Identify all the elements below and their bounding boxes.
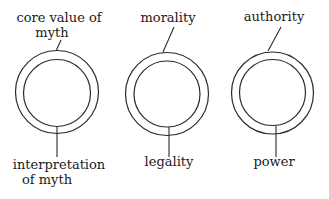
diagram-canvas: core value of myth interpretation of myt… [0, 0, 329, 199]
outer-leader-line [56, 40, 61, 51]
outer-label: authority [244, 9, 305, 24]
circle-pair-myth: core value of myth interpretation of myt… [13, 10, 106, 187]
inner-label: legality [145, 154, 194, 169]
outer-label-line-2: myth [35, 25, 69, 40]
inner-label: power [253, 154, 295, 169]
outer-leader-line [163, 27, 174, 52]
outer-circle [232, 52, 314, 134]
outer-leader-line [268, 27, 281, 51]
inner-label-line-2: of myth [22, 172, 73, 187]
diagram-svg: core value of myth interpretation of myt… [0, 0, 329, 199]
inner-label-line-1: interpretation [13, 157, 106, 172]
outer-label-line-1: core value of [16, 10, 102, 25]
inner-circle [134, 61, 200, 127]
circle-pair-morality: morality legality [126, 10, 209, 169]
inner-circle [24, 60, 91, 127]
circle-pair-authority: authority power [232, 9, 314, 169]
outer-circle [126, 53, 209, 136]
outer-label: morality [140, 10, 196, 25]
inner-circle [240, 60, 306, 126]
outer-circle [16, 51, 99, 134]
